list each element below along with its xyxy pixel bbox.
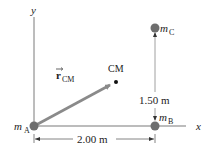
center-of-mass-dot xyxy=(114,80,118,84)
mass-c-label: m C xyxy=(160,22,174,37)
x-axis-label: x xyxy=(195,120,201,132)
horizontal-dimension-arrow-right xyxy=(149,137,154,141)
center-of-mass-label: CM xyxy=(108,63,124,74)
svg-text:A: A xyxy=(24,126,30,135)
mass-c-dot xyxy=(151,24,160,33)
r-cm-vector xyxy=(36,85,110,125)
svg-text:r: r xyxy=(56,69,61,81)
mass-a-dot xyxy=(30,122,39,131)
horizontal-dimension-label: 2.00 m xyxy=(77,133,108,145)
horizontal-dimension-arrow-left xyxy=(35,137,40,141)
vertical-dimension-label: 1.50 m xyxy=(139,94,170,106)
svg-text:CM: CM xyxy=(62,75,74,84)
vertical-dimension-arrow-bottom xyxy=(153,116,157,121)
svg-text:m: m xyxy=(160,22,168,34)
center-of-mass-diagram: y x 1.50 m 2.00 m r CM CM m A m B m C xyxy=(0,0,212,156)
y-axis-label: y xyxy=(30,4,36,16)
mass-a-label: m A xyxy=(14,120,30,135)
svg-text:m: m xyxy=(159,111,167,123)
svg-text:B: B xyxy=(168,117,173,126)
r-cm-vector-label: r CM xyxy=(56,68,74,85)
mass-b-label: m B xyxy=(159,111,173,126)
svg-text:m: m xyxy=(14,120,22,132)
vertical-dimension-arrow-top xyxy=(153,32,157,37)
svg-text:C: C xyxy=(169,28,174,37)
